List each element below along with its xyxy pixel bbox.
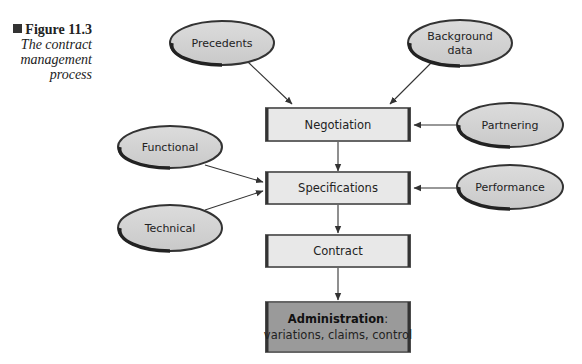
specifications-label: Specifications [298,181,378,195]
box-contract: Contract [266,235,410,267]
arrow-background-to-negotiation [390,62,432,104]
arrow-functional-to-specifications [205,165,263,182]
technical-label: Technical [144,222,196,235]
administration-label-line2: variations, claims, control [264,328,412,342]
box-negotiation: Negotiation [266,108,410,141]
input-background-data: Background data [408,20,512,66]
performance-label: Performance [475,181,545,194]
input-partnering: Partnering [457,103,563,147]
precedents-label: Precedents [191,37,252,50]
background-data-label-line1: Background [427,30,493,43]
arrow-precedents-to-negotiation [248,62,292,104]
input-precedents: Precedents [170,21,274,65]
contract-process-diagram: Precedents Background data Partnering Fu… [0,0,582,364]
negotiation-label: Negotiation [305,118,372,132]
contract-label: Contract [313,244,363,258]
background-data-label-line2: data [448,44,473,57]
input-technical: Technical [118,205,222,251]
box-specifications: Specifications [266,172,410,204]
administration-label-line1: Administration: [288,312,388,326]
input-performance: Performance [457,165,563,209]
partnering-label: Partnering [482,119,539,132]
arrow-technical-to-specifications [205,191,263,210]
box-administration: Administration: variations, claims, cont… [264,302,412,352]
functional-label: Functional [142,141,199,154]
input-functional: Functional [118,126,222,168]
